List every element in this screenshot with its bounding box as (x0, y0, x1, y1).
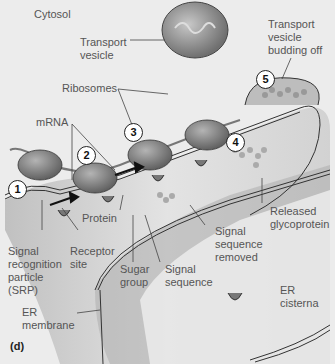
transport-vesicle (162, 2, 228, 58)
label-receptor-site: Receptor site (70, 245, 115, 271)
step-4-marker: 4 (226, 133, 245, 152)
label-er-membrane: ER membrane (22, 306, 75, 332)
step-5-marker: 5 (256, 70, 275, 89)
ribosome-4 (185, 120, 229, 150)
label-protein: Protein (82, 212, 117, 225)
panel-label: (d) (10, 340, 24, 352)
label-signal-sequence-removed: Signal sequence removed (215, 225, 263, 264)
label-ribosomes: Ribosomes (62, 82, 117, 95)
ribosome-2 (73, 163, 117, 193)
label-signal-recognition-particle: Signal recognition particle (SRP) (8, 245, 62, 297)
label-signal-sequence: Signal sequence (165, 263, 213, 289)
label-mrna: mRNA (36, 116, 68, 129)
er-protein-synthesis-diagram: Cytosol Transport vesicle Transport vesi… (0, 0, 335, 364)
label-transport-vesicle-budding-off: Transport vesicle budding off (268, 18, 322, 57)
step-1-marker: 1 (8, 180, 27, 199)
label-cytosol: Cytosol (34, 8, 71, 21)
ribosome-1 (18, 150, 62, 180)
label-sugar-group: Sugar group (120, 263, 149, 289)
step-3-marker: 3 (124, 123, 143, 142)
label-transport-vesicle: Transport vesicle (80, 36, 127, 62)
label-released-glycoprotein: Released glycoprotein (270, 205, 329, 231)
step-2-marker: 2 (77, 146, 96, 165)
label-er-cisterna: ER cisterna (280, 284, 319, 310)
